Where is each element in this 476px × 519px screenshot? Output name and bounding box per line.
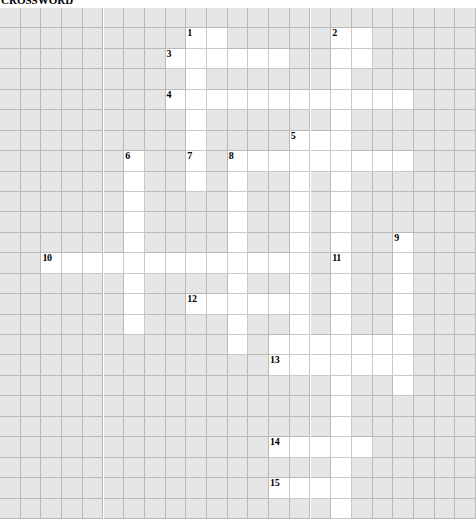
crossword-cell-clue-12[interactable]: 12 — [186, 294, 207, 314]
crossword-cell-open[interactable] — [269, 151, 290, 171]
crossword-cell-open[interactable] — [83, 253, 104, 273]
crossword-cell-open[interactable] — [124, 192, 145, 212]
crossword-cell-open[interactable] — [186, 69, 207, 89]
crossword-cell-open[interactable] — [228, 49, 249, 69]
crossword-cell-open[interactable] — [311, 437, 332, 457]
crossword-cell-open[interactable] — [331, 437, 352, 457]
crossword-cell-open[interactable] — [352, 355, 373, 375]
crossword-cell-open[interactable] — [331, 396, 352, 416]
crossword-cell-open[interactable] — [186, 90, 207, 110]
crossword-cell-open[interactable] — [290, 172, 311, 192]
crossword-cell-open[interactable] — [228, 192, 249, 212]
crossword-cell-open[interactable] — [311, 131, 332, 151]
crossword-cell-open[interactable] — [228, 212, 249, 232]
crossword-cell-open[interactable] — [331, 458, 352, 478]
crossword-cell-clue-3[interactable]: 3 — [166, 49, 187, 69]
crossword-cell-open[interactable] — [331, 274, 352, 294]
crossword-cell-open[interactable] — [331, 69, 352, 89]
crossword-cell-open[interactable] — [373, 355, 394, 375]
crossword-cell-open[interactable] — [331, 131, 352, 151]
crossword-cell-open[interactable] — [228, 172, 249, 192]
crossword-cell-open[interactable] — [269, 90, 290, 110]
crossword-cell-open[interactable] — [393, 253, 414, 273]
crossword-cell-open[interactable] — [124, 233, 145, 253]
crossword-cell-open[interactable] — [331, 110, 352, 130]
crossword-cell-open[interactable] — [290, 212, 311, 232]
crossword-cell-clue-4[interactable]: 4 — [166, 90, 187, 110]
crossword-cell-open[interactable] — [124, 315, 145, 335]
crossword-cell-open[interactable] — [207, 28, 228, 48]
crossword-cell-open[interactable] — [331, 294, 352, 314]
crossword-cell-open[interactable] — [124, 294, 145, 314]
crossword-cell-open[interactable] — [331, 376, 352, 396]
crossword-cell-open[interactable] — [393, 90, 414, 110]
crossword-cell-open[interactable] — [290, 274, 311, 294]
crossword-cell-open[interactable] — [248, 253, 269, 273]
crossword-cell-open[interactable] — [290, 478, 311, 498]
crossword-cell-open[interactable] — [207, 49, 228, 69]
crossword-cell-open[interactable] — [248, 294, 269, 314]
crossword-cell-open[interactable] — [228, 315, 249, 335]
crossword-cell-open[interactable] — [373, 335, 394, 355]
crossword-cell-open[interactable] — [186, 172, 207, 192]
crossword-cell-open[interactable] — [269, 49, 290, 69]
crossword-cell-open[interactable] — [124, 172, 145, 192]
crossword-cell-open[interactable] — [166, 253, 187, 273]
crossword-cell-open[interactable] — [331, 233, 352, 253]
crossword-cell-open[interactable] — [186, 110, 207, 130]
crossword-cell-open[interactable] — [290, 90, 311, 110]
crossword-cell-open[interactable] — [186, 253, 207, 273]
crossword-cell-open[interactable] — [228, 274, 249, 294]
crossword-cell-open[interactable] — [248, 90, 269, 110]
crossword-cell-open[interactable] — [393, 151, 414, 171]
crossword-cell-open[interactable] — [124, 274, 145, 294]
crossword-cell-open[interactable] — [352, 437, 373, 457]
crossword-cell-open[interactable] — [207, 90, 228, 110]
crossword-cell-open[interactable] — [331, 212, 352, 232]
crossword-cell-open[interactable] — [269, 335, 290, 355]
crossword-cell-open[interactable] — [311, 355, 332, 375]
crossword-cell-open[interactable] — [331, 417, 352, 437]
crossword-cell-open[interactable] — [311, 478, 332, 498]
crossword-cell-open[interactable] — [393, 294, 414, 314]
crossword-cell-clue-11[interactable]: 11 — [331, 253, 352, 273]
crossword-cell-open[interactable] — [290, 233, 311, 253]
crossword-cell-open[interactable] — [373, 90, 394, 110]
crossword-cell-open[interactable] — [352, 335, 373, 355]
crossword-cell-open[interactable] — [373, 151, 394, 171]
crossword-cell-open[interactable] — [145, 253, 166, 273]
crossword-cell-open[interactable] — [331, 90, 352, 110]
crossword-cell-open[interactable] — [352, 151, 373, 171]
crossword-cell-open[interactable] — [352, 49, 373, 69]
crossword-cell-open[interactable] — [104, 253, 125, 273]
crossword-cell-open[interactable] — [290, 253, 311, 273]
crossword-cell-open[interactable] — [207, 294, 228, 314]
crossword-cell-open[interactable] — [393, 274, 414, 294]
crossword-cell-clue-6[interactable]: 6 — [124, 151, 145, 171]
crossword-cell-open[interactable] — [207, 253, 228, 273]
crossword-cell-open[interactable] — [228, 233, 249, 253]
crossword-cell-open[interactable] — [228, 294, 249, 314]
crossword-cell-open[interactable] — [228, 253, 249, 273]
crossword-cell-open[interactable] — [124, 253, 145, 273]
crossword-cell-open[interactable] — [331, 478, 352, 498]
crossword-cell-open[interactable] — [290, 192, 311, 212]
crossword-cell-open[interactable] — [393, 315, 414, 335]
crossword-cell-open[interactable] — [331, 192, 352, 212]
crossword-cell-open[interactable] — [290, 151, 311, 171]
crossword-cell-open[interactable] — [331, 315, 352, 335]
crossword-cell-open[interactable] — [248, 49, 269, 69]
crossword-cell-clue-9[interactable]: 9 — [393, 233, 414, 253]
crossword-cell-open[interactable] — [290, 355, 311, 375]
crossword-cell-open[interactable] — [248, 151, 269, 171]
crossword-cell-open[interactable] — [352, 28, 373, 48]
crossword-cell-clue-10[interactable]: 10 — [41, 253, 62, 273]
crossword-grid[interactable]: 123456789101112131415 — [0, 8, 476, 519]
crossword-cell-clue-2[interactable]: 2 — [331, 28, 352, 48]
crossword-cell-open[interactable] — [311, 335, 332, 355]
crossword-cell-open[interactable] — [290, 335, 311, 355]
crossword-cell-clue-15[interactable]: 15 — [269, 478, 290, 498]
crossword-cell-open[interactable] — [269, 294, 290, 314]
crossword-cell-open[interactable] — [331, 172, 352, 192]
crossword-cell-open[interactable] — [352, 90, 373, 110]
